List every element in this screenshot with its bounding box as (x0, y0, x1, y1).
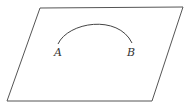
plane-parallelogram (7, 7, 183, 101)
label-point-b: B (126, 46, 135, 59)
diagram-canvas: A B (0, 0, 192, 107)
arc-a-to-b (58, 24, 132, 44)
label-point-a: A (53, 46, 62, 59)
